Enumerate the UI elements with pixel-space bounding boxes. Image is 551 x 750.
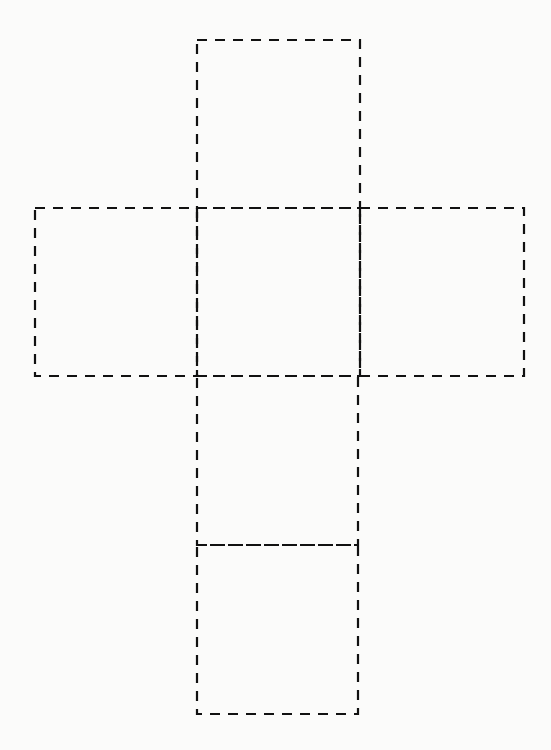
cube-face-right	[360, 208, 524, 376]
cube-face-left	[35, 208, 197, 376]
cube-face-bottom	[197, 545, 358, 714]
cube-net-svg	[0, 0, 551, 750]
cube-face-center	[197, 208, 360, 376]
cube-face-top	[197, 40, 360, 208]
cube-net-diagram	[0, 0, 551, 750]
cube-face-lower	[197, 376, 358, 545]
